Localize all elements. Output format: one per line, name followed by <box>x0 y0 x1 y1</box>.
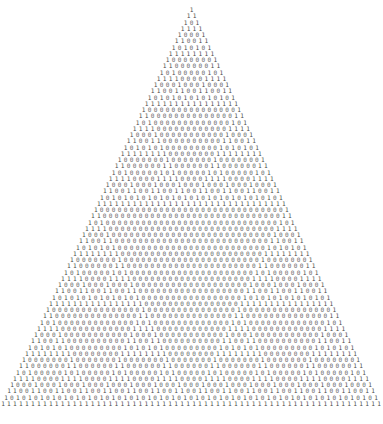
triangle-row: 1111111111111111111111111111111111111111… <box>0 401 383 407</box>
pascal-triangle-figure: 1111011111100011100111010101111111111000… <box>0 0 383 424</box>
